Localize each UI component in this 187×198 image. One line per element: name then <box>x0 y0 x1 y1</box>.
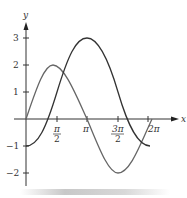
tick-label-x-3pi-half-den: 2 <box>115 134 121 144</box>
y-axis-arrow-icon <box>24 22 29 30</box>
tick-label-y-1: 1 <box>13 87 19 97</box>
tick-label-x-pi-half-den: 2 <box>54 134 60 144</box>
page-shadow <box>20 189 170 195</box>
tick-label-y-m1: −1 <box>6 141 19 151</box>
y-axis-label: y <box>22 10 29 20</box>
x-axis-arrow-icon <box>171 117 179 122</box>
tick-label-x-pi-half-num: π <box>53 124 61 134</box>
x-axis-label: x <box>181 114 186 124</box>
tick-label-x-3pi-half-num: 3π <box>112 124 125 134</box>
tick-label-x-pi: π <box>82 124 90 134</box>
tick-label-x-2pi: 2π <box>147 124 161 134</box>
chart: y x 3 2 1 −1 −2 π 2 π 3π 2 2π <box>0 0 187 198</box>
tick-label-y-3: 3 <box>13 33 19 43</box>
tick-label-y-2: 2 <box>13 60 19 70</box>
tick-label-y-m2: −2 <box>6 168 19 178</box>
